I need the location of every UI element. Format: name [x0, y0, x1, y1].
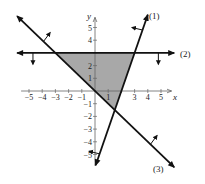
x-tick-label: −2	[64, 93, 73, 102]
shade-arrow-1a	[132, 28, 143, 31]
x-tick-label: −5	[25, 93, 34, 102]
line-3	[17, 16, 174, 167]
y-tick-label: −4	[83, 138, 92, 147]
y-tick-label: 5	[88, 24, 92, 33]
y-tick-label: 2	[88, 62, 92, 71]
inequality-graph: −5−4−3−2−113455421−1−2−3−4−5xy (1)(2)(3)	[0, 0, 205, 184]
line-3-label: (3)	[153, 164, 164, 174]
y-tick-label: 4	[88, 36, 92, 45]
y-tick-label: 1	[88, 74, 92, 83]
x-axis-label: x	[172, 92, 177, 102]
x-tick-label: −3	[51, 93, 60, 102]
shade-arrow-3a	[44, 33, 51, 42]
y-axis-label: y	[86, 11, 91, 21]
x-tick-label: 3	[133, 93, 137, 102]
x-tick-label: 5	[159, 93, 163, 102]
y-tick-label: −3	[83, 125, 92, 134]
shade-arrow-3b	[150, 135, 157, 144]
x-tick-label: −4	[38, 93, 47, 102]
x-tick-label: 1	[106, 93, 110, 102]
x-tick-label: 4	[146, 93, 150, 102]
line-1-label: (1)	[149, 11, 160, 21]
y-tick-label: −2	[83, 112, 92, 121]
y-tick-label: −1	[83, 100, 92, 109]
line-2-label: (2)	[180, 49, 191, 59]
